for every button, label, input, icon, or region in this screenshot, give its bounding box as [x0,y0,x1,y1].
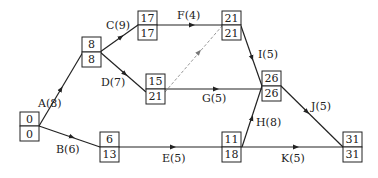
node-1-early: 8 [88,38,95,51]
edge-a [39,52,83,126]
node-2-late: 17 [141,27,155,40]
node-1: 8 8 [82,37,101,67]
edge-label-i: I(5) [258,48,278,61]
node-3-late: 21 [149,90,163,103]
node-4: 21 21 [222,11,241,40]
edge-label-j: J(5) [310,100,331,113]
node-5: 26 26 [262,71,281,101]
node-8-early: 31 [346,133,360,146]
edge-label-e: E(5) [162,152,186,165]
node-1-late: 8 [88,53,95,66]
node-3: 15 21 [146,74,165,104]
edge-label-a: A(8) [37,97,62,110]
node-7-early: 11 [225,133,239,146]
node-5-early: 26 [265,72,279,85]
node-8: 31 31 [343,132,362,162]
edge-label-h: H(8) [256,116,281,129]
node-6-early: 6 [106,133,113,146]
node-8-late: 31 [346,148,360,161]
edge-label-b: B(6) [56,143,80,156]
node-6: 6 13 [100,132,119,162]
node-4-late: 21 [225,27,239,40]
node-5-late: 26 [265,87,279,100]
edge-label-g: G(5) [202,92,226,105]
node-7: 11 18 [222,132,241,162]
node-6-late: 13 [103,148,117,161]
network-diagram: A(8) B(6) C(9) D(7) F(4) G(5) I(5) E(5) [0,0,378,178]
edge-label-d: D(7) [101,76,125,89]
edge-label-k: K(5) [281,152,305,165]
edge-label-c: C(9) [106,19,130,32]
node-3-early: 15 [149,75,163,88]
node-0-early: 0 [26,113,33,126]
edge-label-f: F(4) [177,9,200,22]
node-2-early: 17 [141,12,155,25]
node-2: 17 17 [138,11,157,40]
edge-j [281,86,343,147]
node-4-early: 21 [225,12,239,25]
edge-dummy [165,26,222,92]
nodes: 0 0 8 8 17 17 15 21 21 21 [20,11,362,162]
node-7-late: 18 [225,148,239,161]
edges: A(8) B(6) C(9) D(7) F(4) G(5) I(5) E(5) [37,9,343,165]
node-0-late: 0 [26,128,33,141]
node-0: 0 0 [20,112,39,141]
